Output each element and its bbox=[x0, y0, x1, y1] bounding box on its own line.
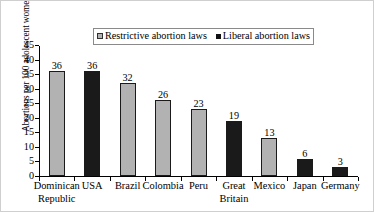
y-tick-mark bbox=[35, 60, 39, 61]
y-tick: 10 bbox=[39, 147, 40, 148]
legend-label-liberal: Liberal abortion laws bbox=[223, 30, 310, 42]
y-tick-label: 10 bbox=[24, 141, 34, 153]
legend-label-restrictive: Restrictive abortion laws bbox=[105, 30, 207, 42]
y-tick-mark bbox=[35, 147, 39, 148]
bar[interactable]: 13 bbox=[261, 138, 277, 176]
bar[interactable]: 32 bbox=[120, 83, 136, 176]
x-tick-label: DominicanRepublic bbox=[34, 180, 80, 205]
y-tick-label: 35 bbox=[24, 68, 34, 80]
y-tick-mark bbox=[35, 89, 39, 90]
x-tick-mark bbox=[110, 177, 111, 181]
y-tick: 30 bbox=[39, 89, 40, 90]
x-tick-mark bbox=[252, 177, 253, 181]
plot-area: 051015202530354045 3636322623191363 Domi… bbox=[39, 46, 358, 177]
y-tick: 5 bbox=[39, 161, 40, 162]
bar-value-label: 13 bbox=[264, 127, 274, 138]
y-tick-label: 30 bbox=[24, 83, 34, 95]
bar-value-label: 6 bbox=[302, 148, 307, 159]
y-tick: 15 bbox=[39, 132, 40, 133]
bar-value-label: 36 bbox=[87, 60, 97, 71]
bar-value-label: 23 bbox=[193, 98, 203, 109]
square-gray-icon bbox=[97, 33, 103, 39]
y-tick: 45 bbox=[39, 45, 40, 46]
y-tick-label: 20 bbox=[24, 112, 34, 124]
y-tick-label: 40 bbox=[24, 54, 34, 66]
x-tick-label: USA bbox=[82, 180, 103, 193]
y-axis-line bbox=[39, 46, 40, 177]
y-tick-mark bbox=[35, 45, 39, 46]
x-tick-label: Brazil bbox=[115, 180, 140, 193]
x-tick-label: Peru bbox=[189, 180, 208, 193]
legend-item-liberal[interactable]: Liberal abortion laws bbox=[216, 30, 310, 42]
y-tick: 25 bbox=[39, 103, 40, 104]
bar-value-label: 36 bbox=[52, 60, 62, 71]
bar-value-label: 26 bbox=[158, 89, 168, 100]
y-tick: 40 bbox=[39, 60, 40, 61]
bar-value-label: 32 bbox=[123, 72, 133, 83]
bar[interactable]: 36 bbox=[84, 71, 100, 176]
y-tick-label: 5 bbox=[29, 155, 34, 167]
x-axis-line bbox=[39, 176, 358, 177]
x-tick-label: Mexico bbox=[254, 180, 286, 193]
bar[interactable]: 3 bbox=[332, 167, 348, 176]
x-tick-label: Germany bbox=[321, 180, 360, 193]
y-tick-mark bbox=[35, 118, 39, 119]
x-tick-label: GreatBritain bbox=[220, 180, 249, 205]
x-tick-mark bbox=[216, 177, 217, 181]
x-tick-label: Colombia bbox=[143, 180, 184, 193]
square-black-icon bbox=[216, 34, 221, 39]
y-tick: 20 bbox=[39, 118, 40, 119]
legend-item-restrictive[interactable]: Restrictive abortion laws bbox=[97, 30, 207, 42]
y-tick-label: 15 bbox=[24, 126, 34, 138]
bar[interactable]: 19 bbox=[226, 121, 242, 176]
y-tick-mark bbox=[35, 161, 39, 162]
y-tick-mark bbox=[35, 103, 39, 104]
bar[interactable]: 26 bbox=[155, 100, 171, 176]
y-tick: 35 bbox=[39, 74, 40, 75]
bar[interactable]: 23 bbox=[191, 109, 207, 176]
bar-chart-figure: Abortions per 100 adolescent women Restr… bbox=[0, 0, 374, 212]
y-tick-mark bbox=[35, 132, 39, 133]
x-tick-mark bbox=[287, 177, 288, 181]
bar[interactable]: 6 bbox=[297, 159, 313, 176]
y-tick-label: 25 bbox=[24, 97, 34, 109]
bar-value-label: 3 bbox=[338, 156, 343, 167]
bar[interactable]: 36 bbox=[49, 71, 65, 176]
bar-value-label: 19 bbox=[229, 110, 239, 121]
y-tick-label: 45 bbox=[24, 39, 34, 51]
chart-legend: Restrictive abortion laws Liberal aborti… bbox=[93, 28, 314, 45]
x-tick-label: Japan bbox=[293, 180, 317, 193]
y-tick-mark bbox=[35, 74, 39, 75]
